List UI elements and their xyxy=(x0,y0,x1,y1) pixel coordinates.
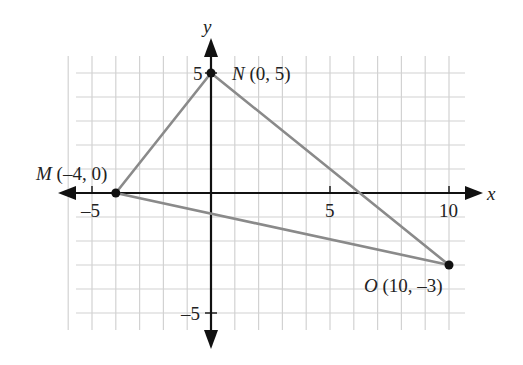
point-label-n: N (0, 5) xyxy=(231,63,291,85)
tick-label-x-10: 10 xyxy=(439,200,458,221)
tick-label-x-5: 5 xyxy=(325,200,335,221)
y-axis-up-arrow-icon xyxy=(204,38,218,57)
point-m-name: M xyxy=(35,163,53,184)
point-o-coords: (10, –3) xyxy=(378,275,443,297)
x-axis-left-arrow-icon xyxy=(58,186,76,200)
point-m xyxy=(111,189,120,198)
point-label-m: M (–4, 0) xyxy=(35,163,107,185)
x-axis-right-arrow-icon xyxy=(465,186,483,200)
x-axis-label: x xyxy=(486,183,496,204)
tick-label-y-neg5: –5 xyxy=(180,303,200,324)
triangle-plot: y x –5 5 10 5 –5 M (–4, 0) N (0, 5) O (1… xyxy=(0,0,523,365)
y-axis-label: y xyxy=(201,16,212,37)
tick-label-x-neg5: –5 xyxy=(80,200,100,221)
point-label-o: O (10, –3) xyxy=(364,275,443,297)
point-n-coords: (0, 5) xyxy=(245,63,291,85)
point-m-coords: (–4, 0) xyxy=(52,163,107,185)
y-axis-down-arrow-icon xyxy=(204,330,218,349)
point-o xyxy=(445,261,454,270)
tick-label-y-5: 5 xyxy=(193,63,203,84)
coordinate-plane-figure: y x –5 5 10 5 –5 M (–4, 0) N (0, 5) O (1… xyxy=(0,0,523,365)
point-o-name: O xyxy=(364,275,378,296)
point-n xyxy=(207,69,216,78)
